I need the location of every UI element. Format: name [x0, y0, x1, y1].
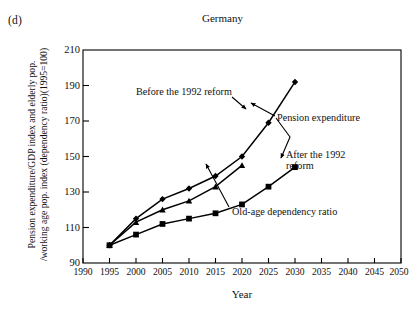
data-point-square [107, 242, 113, 248]
data-point-diamond [186, 185, 192, 191]
data-point-square [133, 232, 139, 238]
data-point-square [186, 216, 192, 222]
y-tick-marks [83, 86, 89, 228]
leader-before-reform [232, 97, 246, 109]
data-point-triangle [239, 162, 245, 168]
series-square [107, 164, 298, 248]
annotation-leader-lines [206, 97, 290, 207]
series-triangle [106, 162, 245, 248]
leader-pension-expenditure [251, 103, 275, 116]
data-point-square [160, 221, 166, 227]
data-series-layer [106, 79, 298, 249]
leader-after-reform [276, 118, 290, 158]
leader-old-age-ratio [206, 164, 229, 207]
x-tick-marks [83, 258, 401, 263]
data-point-square [292, 164, 298, 170]
data-point-square [266, 184, 272, 190]
data-point-square [213, 210, 219, 216]
series-line [110, 165, 243, 245]
data-point-square [239, 202, 245, 208]
data-point-triangle [186, 198, 192, 204]
